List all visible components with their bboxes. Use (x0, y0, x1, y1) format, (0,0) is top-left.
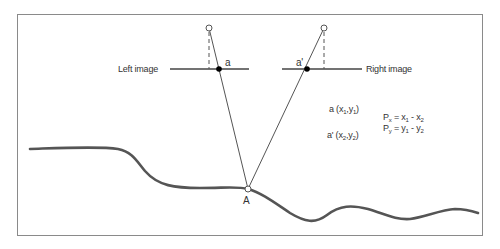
ground-point-label: A (243, 195, 249, 206)
left-ray (209, 28, 248, 189)
ground-point-A-icon (245, 186, 251, 192)
point-a-label: a (225, 57, 230, 68)
a-prime-coordinates: a' (x2,y2) (327, 130, 358, 141)
left-camera-center-icon (206, 25, 212, 31)
right-ray (248, 28, 324, 189)
stereo-diagram (0, 0, 500, 249)
right-camera-center-icon (321, 25, 327, 31)
point-a-icon (216, 66, 222, 72)
point-a-prime-label: a' (296, 57, 303, 68)
py-equation: Py = y1 - y2 (383, 123, 424, 134)
right-image-label: Right image (366, 64, 412, 74)
terrain-curve (30, 147, 478, 220)
point-a-prime-icon (304, 66, 310, 72)
a-coordinates: a (x1,y1) (329, 104, 359, 115)
px-equation: Px = x1 - x2 (383, 112, 424, 123)
left-image-label: Left image (118, 64, 158, 74)
